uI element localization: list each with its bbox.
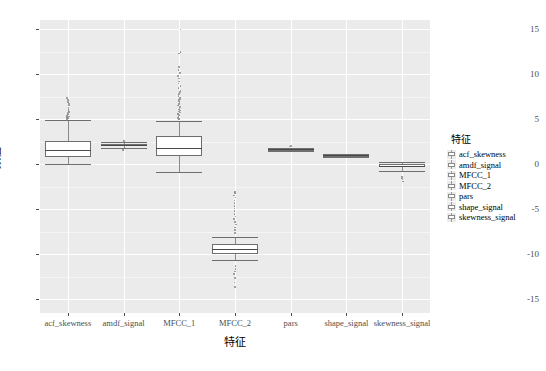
grid-line-vertical: [124, 20, 125, 313]
grid-line-vertical: [291, 20, 292, 313]
x-axis-tick-mark: [235, 313, 236, 316]
outlier-point: [234, 229, 236, 231]
y-axis-tick-mark: [36, 74, 39, 75]
legend-item-pars[interactable]: pars: [447, 191, 546, 202]
whisker-cap-lower: [45, 164, 91, 165]
outlier-point: [233, 273, 235, 275]
outlier-point: [402, 181, 404, 183]
legend-item-amdf_signal[interactable]: amdf_signal: [447, 160, 546, 171]
median-line: [323, 155, 369, 156]
grid-line-vertical: [68, 20, 69, 313]
x-axis-tick-mark: [346, 313, 347, 316]
whisker-cap-lower: [379, 171, 425, 172]
legend-key-icon: [447, 202, 456, 211]
whisker-cap-upper: [45, 120, 91, 121]
outlier-point: [178, 95, 180, 97]
chart-root: 数值 特征 特征 acf_skewnessamdf_signalMFCC_1MF…: [0, 0, 546, 371]
y-axis-label: 数值: [0, 147, 3, 169]
outlier-point: [180, 85, 182, 87]
whisker-cap-lower: [156, 172, 202, 173]
outlier-point: [233, 195, 235, 197]
y-axis-tick-label: 15: [530, 24, 539, 34]
outlier-point: [234, 232, 236, 234]
outlier-point: [179, 102, 181, 104]
legend-item-MFCC_2[interactable]: MFCC_2: [447, 181, 546, 192]
outlier-point: [67, 101, 69, 103]
box-iqr: [45, 141, 91, 156]
y-axis-tick-label: -10: [527, 249, 539, 259]
y-axis-tick-mark: [36, 209, 39, 210]
x-axis-tick-label: pars: [284, 318, 298, 328]
outlier-point: [179, 91, 181, 93]
y-axis-tick-mark: [36, 29, 39, 30]
x-axis-tick-label: amdf_signal: [103, 318, 145, 328]
x-axis-label: 特征: [0, 333, 470, 349]
legend-item-label: skewness_signal: [459, 212, 516, 222]
x-axis-tick-mark: [124, 313, 125, 316]
outlier-point: [177, 75, 179, 77]
x-axis-tick-mark: [402, 313, 403, 316]
y-axis-tick-label: 5: [535, 114, 540, 124]
x-axis-tick-mark: [68, 313, 69, 316]
x-axis-tick-label: acf_skewness: [44, 318, 91, 328]
grid-line-vertical: [346, 20, 347, 313]
outlier-point: [234, 213, 236, 215]
y-axis: [0, 0, 36, 371]
legend-item-label: MFCC_1: [459, 170, 491, 180]
y-axis-tick-label: 10: [530, 69, 539, 79]
legend-item-label: amdf_signal: [459, 160, 501, 170]
outlier-point: [179, 72, 181, 74]
legend-key-icon: [447, 160, 456, 169]
y-axis-tick-mark: [36, 119, 39, 120]
box-iqr: [156, 136, 202, 155]
outlier-point: [68, 103, 70, 105]
legend-key-icon: [447, 150, 456, 159]
x-axis-tick-mark: [179, 313, 180, 316]
legend-item-label: shape_signal: [459, 202, 503, 212]
outlier-point: [68, 116, 70, 118]
y-axis-tick-mark: [36, 164, 39, 165]
outlier-point: [234, 192, 236, 194]
whisker-cap-upper: [156, 121, 202, 122]
legend-item-label: pars: [459, 191, 473, 201]
whisker-cap-upper: [212, 237, 258, 238]
outlier-point: [178, 69, 180, 71]
outlier-point: [67, 99, 69, 101]
whisker-cap-upper: [101, 142, 147, 143]
median-line: [379, 166, 425, 167]
outlier-point: [179, 106, 181, 108]
outlier-point: [66, 97, 68, 99]
legend-key-icon: [447, 192, 456, 201]
x-axis-tick-label: MFCC_2: [219, 318, 251, 328]
x-axis-tick-label: shape_signal: [324, 318, 368, 328]
outlier-point: [234, 286, 236, 288]
outlier-point: [178, 66, 180, 68]
outlier-point: [234, 277, 236, 279]
outlier-point: [234, 221, 236, 223]
outlier-point: [233, 218, 235, 220]
whisker-cap-upper: [379, 162, 425, 163]
y-axis-tick-label: -5: [532, 204, 540, 214]
y-axis-tick-mark: [36, 299, 39, 300]
whisker-cap-lower: [212, 260, 258, 261]
y-axis-tick-label: -15: [527, 294, 539, 304]
legend-item-MFCC_1[interactable]: MFCC_1: [447, 170, 546, 181]
legend-key-icon: [447, 171, 456, 180]
median-line: [268, 149, 314, 150]
legend-item-acf_skewness[interactable]: acf_skewness: [447, 149, 546, 160]
legend-title: 特征: [451, 131, 546, 146]
legend-item-label: MFCC_2: [459, 181, 491, 191]
outlier-point: [178, 81, 180, 83]
legend-key-icon: [447, 213, 456, 222]
median-line: [212, 249, 258, 250]
y-axis-tick-label: 0: [535, 159, 540, 169]
outlier-point: [179, 98, 181, 100]
outlier-point: [123, 140, 125, 142]
outlier-point: [234, 227, 236, 229]
outlier-point: [178, 93, 180, 95]
median-line: [45, 150, 91, 151]
median-line: [101, 145, 147, 146]
outlier-point: [180, 51, 182, 53]
x-axis-tick-mark: [291, 313, 292, 316]
y-axis-tick-mark: [36, 254, 39, 255]
